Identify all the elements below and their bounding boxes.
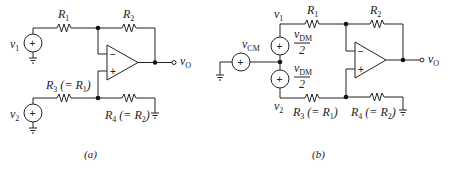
caption-b: (b) <box>312 148 325 161</box>
svg-text:2: 2 <box>299 77 305 91</box>
plus-sign: + <box>277 74 283 85</box>
panel-b: + vCM + vDM 2 v1 + vDM 2 v <box>216 3 439 161</box>
ground-icon <box>29 128 37 133</box>
noninverting-input-sign: + <box>110 66 116 77</box>
label-r3: R3 (= R1) <box>45 78 91 94</box>
label-r1: R1 <box>57 7 69 23</box>
plus-sign: + <box>238 57 244 68</box>
plus-sign: + <box>30 38 36 49</box>
label-v1: v1 <box>10 37 19 53</box>
ground-icon <box>399 110 407 115</box>
label-vcm: vCM <box>242 37 260 53</box>
caption-a: (a) <box>84 148 97 161</box>
voltage-source-vdm-half-top: + <box>271 24 289 62</box>
ground-icon <box>151 113 159 118</box>
resistor-r3 <box>280 94 346 102</box>
voltage-source-vdm-half-bottom: + <box>271 62 289 98</box>
label-r4: R4 (= R2) <box>104 108 150 124</box>
svg-text:2: 2 <box>299 43 305 57</box>
plus-sign: + <box>277 41 283 52</box>
op-amp: − + <box>355 42 386 78</box>
label-r3: R3 (= R1) <box>292 105 338 121</box>
svg-text:vDM: vDM <box>294 61 312 77</box>
resistor-r1 <box>33 24 98 32</box>
output-terminal <box>172 61 176 65</box>
output-node <box>401 58 406 63</box>
label-v2: v2 <box>10 107 19 123</box>
label-r4: R4 (= R2) <box>350 105 396 121</box>
output-node <box>153 60 158 65</box>
label-r2: R2 <box>369 3 381 19</box>
resistor-r1 <box>280 20 346 28</box>
label-vo: vO <box>180 54 191 70</box>
label-r2: R2 <box>122 7 134 23</box>
voltage-source-vcm: + <box>216 53 280 80</box>
noninverting-input-sign: + <box>358 64 364 75</box>
voltage-source-v1: + <box>24 28 42 63</box>
label-vdm-half-bottom: vDM 2 <box>294 61 312 91</box>
label-vo: vO <box>428 52 439 68</box>
label-r1: R1 <box>306 3 318 19</box>
plus-sign: + <box>30 108 36 119</box>
op-amp: − + <box>107 45 138 80</box>
resistor-r3 <box>33 94 98 102</box>
difference-amplifier-figure: + v1 R1 R2 − + vO <box>0 0 452 174</box>
inverting-input-sign: − <box>110 49 116 60</box>
ground-icon <box>216 75 224 80</box>
inverting-input-sign: − <box>358 46 364 57</box>
label-v2: v2 <box>274 99 283 115</box>
voltage-source-v2: + <box>24 98 42 133</box>
output-terminal <box>420 58 424 62</box>
panel-a: + v1 R1 R2 − + vO <box>10 7 191 161</box>
label-vdm-half-top: vDM 2 <box>294 27 312 57</box>
label-v1: v1 <box>274 7 283 23</box>
ground-icon <box>29 58 37 63</box>
